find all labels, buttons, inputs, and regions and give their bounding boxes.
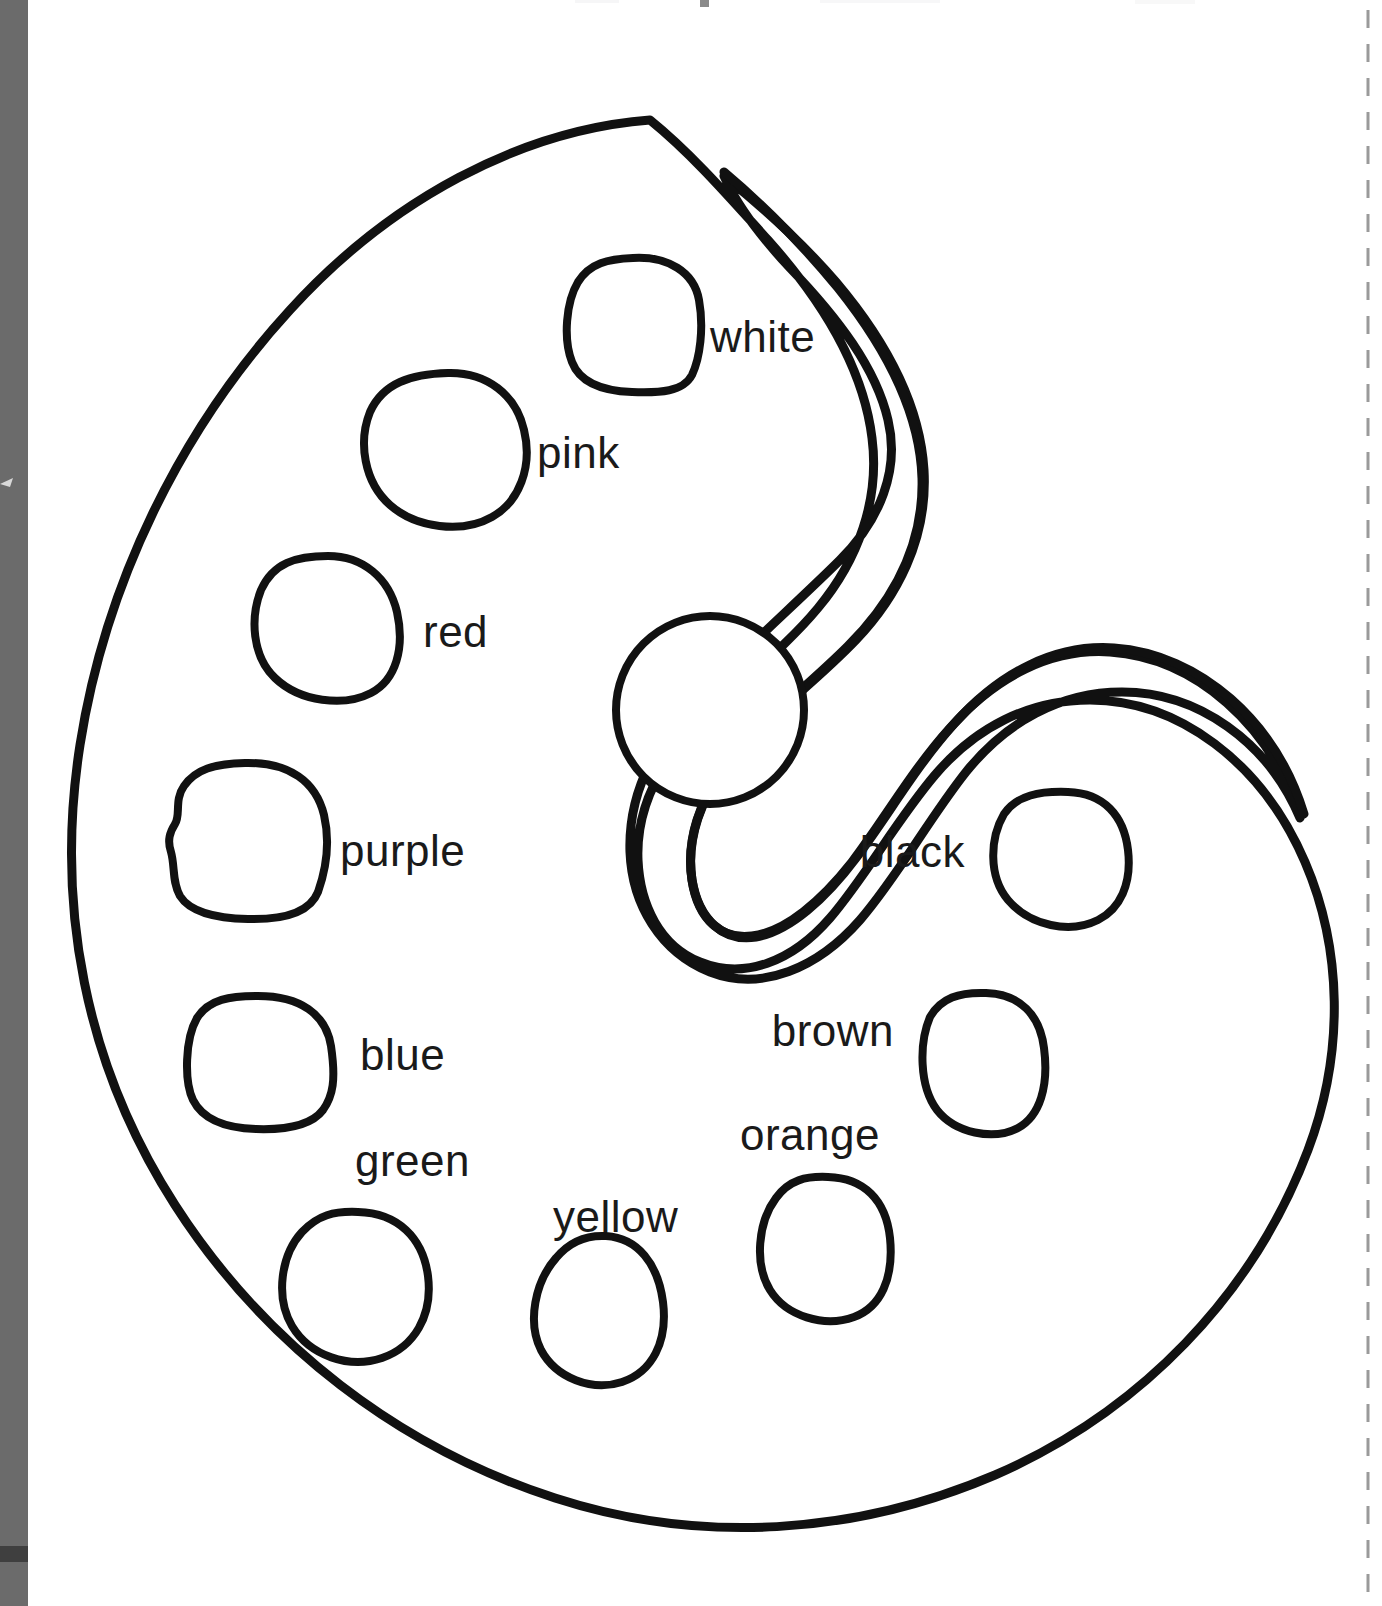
label-white: white — [709, 312, 815, 361]
gutter-notch-marker — [0, 478, 14, 492]
paint-well-red[interactable] — [255, 556, 400, 701]
label-brown: brown — [772, 1006, 894, 1055]
label-yellow: yellow — [553, 1192, 678, 1241]
cropped-header-text-remnant — [575, 0, 1195, 7]
gutter-dark-band — [0, 1546, 28, 1562]
paint-well-brown[interactable] — [922, 993, 1045, 1134]
paint-well-yellow[interactable] — [534, 1236, 664, 1385]
palette-illustration: white pink red purple black blue brown g… — [0, 0, 1382, 1606]
paint-well-white[interactable] — [567, 258, 701, 392]
label-orange: orange — [740, 1110, 880, 1159]
paint-well-orange[interactable] — [760, 1177, 891, 1321]
label-black: black — [860, 827, 966, 876]
worksheet-page: white pink red purple black blue brown g… — [0, 0, 1382, 1606]
paint-well-pink[interactable] — [364, 373, 527, 527]
scanner-edge-gutter — [0, 0, 28, 1606]
paint-well-purple[interactable] — [169, 763, 327, 919]
paint-well-green[interactable] — [282, 1212, 429, 1362]
paint-well-black[interactable] — [993, 792, 1129, 927]
label-pink: pink — [537, 428, 620, 477]
label-red: red — [423, 607, 488, 656]
paint-well-blue[interactable] — [187, 996, 333, 1129]
label-blue: blue — [360, 1030, 445, 1079]
paint-well-center-unlabeled[interactable] — [616, 616, 804, 804]
label-green: green — [355, 1136, 470, 1185]
label-purple: purple — [340, 826, 465, 875]
